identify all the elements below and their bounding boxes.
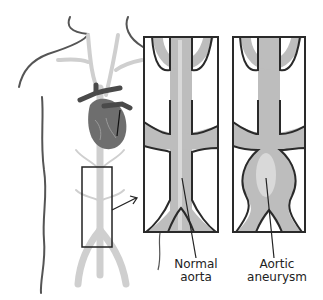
normal-aorta-label: Normal aorta: [168, 258, 224, 284]
normal-aorta-panel: [140, 30, 222, 270]
pointer-arrow: [112, 196, 137, 210]
aneurysm-label-line2: aneurysm: [244, 271, 310, 284]
normal-label-line2: aorta: [168, 271, 224, 284]
aorta-diagram: [0, 0, 323, 300]
aortic-aneurysm-label: Aortic aneurysm: [244, 258, 310, 284]
